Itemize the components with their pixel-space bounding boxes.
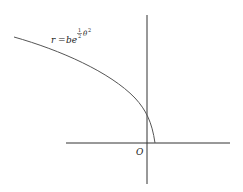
equation-label: r = be 1 2 θ 2: [51, 27, 91, 45]
eq-base: be: [66, 35, 77, 45]
eq-power: 2: [88, 27, 91, 33]
spiral-curve: [14, 37, 155, 143]
origin-label: O: [136, 147, 144, 157]
eq-sign: =: [58, 35, 66, 45]
spiral-diagram: r = be 1 2 θ 2 O: [0, 0, 243, 192]
eq-frac-den: 2: [78, 33, 81, 39]
eq-lhs: r: [51, 35, 56, 45]
